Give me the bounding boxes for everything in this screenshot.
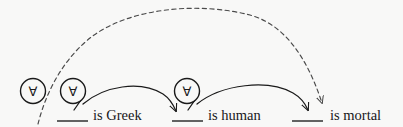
greek-universal-quantifier[interactable]: ∀	[61, 79, 86, 111]
quantifier-scope-diagram: ∀ ∀ ∀ is Greek is human is mortal	[0, 0, 403, 127]
predicate-label: is human	[208, 107, 262, 123]
predicate-is-mortal: is mortal	[292, 107, 381, 123]
human-universal-quantifier[interactable]: ∀	[175, 79, 200, 111]
predicate-is-human: is human	[172, 107, 262, 123]
forall-icon: ∀	[29, 84, 38, 99]
diagram-canvas: ∀ ∀ ∀ is Greek is human is mortal	[0, 0, 403, 127]
forall-icon: ∀	[183, 84, 192, 99]
greek-to-mortal-dashed-arc	[38, 8, 322, 124]
predicate-label: is mortal	[330, 107, 381, 123]
predicate-label: is Greek	[93, 107, 142, 123]
forall-icon: ∀	[69, 84, 78, 99]
outer-universal-quantifier[interactable]: ∀	[21, 79, 46, 104]
predicate-is-greek: is Greek	[57, 107, 142, 123]
